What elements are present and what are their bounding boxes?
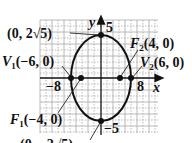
label-f2: F2(4, 0) — [130, 37, 174, 51]
y-axis-arrow-icon — [98, 16, 105, 24]
label-v2-name: V — [140, 55, 149, 70]
point-f1 — [78, 75, 84, 81]
label-f1: F1(−4, 0) — [10, 113, 62, 127]
label-v1: V1(−6, 0) — [2, 55, 54, 69]
point-v2 — [128, 75, 134, 81]
label-f2-name: F — [130, 36, 139, 51]
label-v2: V2(6, 0) — [140, 56, 184, 70]
label-f1-coords: (−4, 0) — [24, 112, 62, 127]
x-tick-pos: 8 — [137, 80, 144, 94]
label-v2-coords: (6, 0) — [154, 55, 184, 70]
y-tick-neg: −5 — [104, 122, 119, 136]
y-tick-pos: 5 — [106, 21, 113, 35]
y-axis-label: y — [89, 16, 95, 30]
label-f1-name: F — [10, 112, 19, 127]
label-bottom-vertex: (0, −2√5) — [20, 138, 73, 143]
label-f2-coords: (4, 0) — [144, 36, 174, 51]
label-top-vertex: (0, 2√5) — [7, 27, 52, 41]
label-v1-name: V — [2, 54, 11, 69]
x-axis-label: x — [153, 81, 160, 95]
point-f2 — [117, 75, 123, 81]
point-top-vertex — [98, 32, 104, 38]
x-tick-neg: −8 — [46, 80, 61, 94]
label-v1-coords: (−6, 0) — [16, 54, 54, 69]
point-v1 — [68, 75, 74, 81]
